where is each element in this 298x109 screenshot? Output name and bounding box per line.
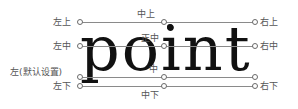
label-middle-right: 右中 — [260, 41, 278, 51]
anchor-top-center-icon — [161, 19, 167, 25]
anchor-bottom-left-icon — [77, 83, 83, 89]
label-baseline-left: 左(默认设置) — [10, 67, 62, 77]
anchor-baseline-center-icon — [161, 74, 167, 80]
middle-guide-line — [81, 46, 253, 47]
anchor-baseline-left-icon — [77, 74, 83, 80]
label-top-left: 左上 — [53, 17, 71, 27]
label-bottom-center: 中下 — [141, 90, 159, 100]
label-middle-left: 左中 — [53, 41, 71, 51]
anchor-baseline-right-icon — [252, 74, 258, 80]
anchor-bottom-right-icon — [252, 83, 258, 89]
anchor-middle-center-icon — [161, 43, 167, 49]
anchor-middle-right-icon — [252, 43, 258, 49]
i-dot-marker-icon — [167, 24, 173, 30]
baseline-guide-line — [81, 77, 253, 78]
label-top-center: 中上 — [137, 9, 155, 19]
bottom-guide-line — [81, 86, 253, 87]
text-alignment-diagram: point 左上 中上 右上 左中 正中 右中 左(默认设置) 中 左下 中下 … — [0, 0, 298, 109]
anchor-bottom-center-icon — [161, 83, 167, 89]
label-bottom-right: 右下 — [260, 81, 278, 91]
label-middle-center: 正中 — [141, 33, 159, 43]
anchor-middle-left-icon — [77, 43, 83, 49]
anchor-top-right-icon — [252, 19, 258, 25]
label-top-right: 右上 — [260, 17, 278, 27]
anchor-top-left-icon — [77, 19, 83, 25]
label-baseline-center: 中 — [149, 64, 158, 74]
label-bottom-left: 左下 — [53, 81, 71, 91]
top-guide-line — [81, 22, 253, 23]
